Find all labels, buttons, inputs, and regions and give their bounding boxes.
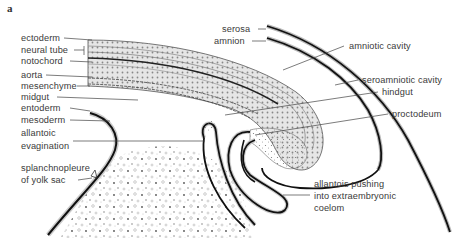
label-hindgut: hindgut bbox=[382, 87, 413, 98]
label-of-yolk-sac: of yolk sac bbox=[21, 175, 66, 186]
yolk-mass bbox=[60, 146, 252, 238]
label-splanchnopleure: splanchnopleure bbox=[21, 163, 90, 174]
label-ectoderm: ectoderm bbox=[21, 33, 60, 44]
label-midgut: midgut bbox=[21, 92, 49, 103]
label-amniotic-cavity: amniotic cavity bbox=[349, 41, 411, 52]
label-mesenchyme: mesenchyme bbox=[21, 81, 77, 92]
label-allantoic: allantoic bbox=[21, 128, 56, 139]
label-amnion: amnion bbox=[214, 36, 245, 47]
label-seroamniotic-cavity: seroamniotic cavity bbox=[362, 75, 442, 86]
label-entoderm: entoderm bbox=[21, 103, 61, 114]
label-aorta: aorta bbox=[21, 70, 42, 81]
embryo-body bbox=[88, 40, 323, 170]
label-allantois-line3: coelom bbox=[314, 203, 344, 214]
label-neural-tube: neural tube bbox=[21, 45, 68, 56]
label-serosa: serosa bbox=[222, 24, 250, 35]
label-allantois-line2: into extraembryonic bbox=[314, 191, 396, 202]
label-evagination: evagination bbox=[21, 141, 69, 152]
label-allantois-line1: allantois pushing bbox=[314, 179, 384, 190]
label-proctodeum: proctodeum bbox=[392, 109, 442, 120]
label-notochord: notochord bbox=[21, 56, 63, 67]
label-mesoderm: mesoderm bbox=[21, 115, 65, 126]
